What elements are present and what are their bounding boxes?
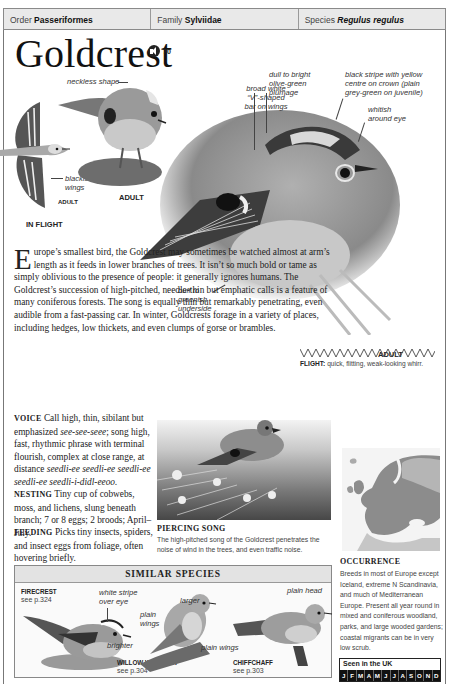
taxonomy-bar: Order Passeriformes Family Sylviidae Spe… [3,8,446,30]
label-plain-wings-willow: plainwings [140,610,159,628]
month-sep: S [407,670,415,681]
leader-line [118,82,128,83]
label-plain-wings-chiffchaff: plain wings [201,643,239,652]
month-strip: J F M A M J J A S O N D [340,670,440,681]
month-nov: N [424,670,432,681]
month-jun: J [382,670,390,681]
species-ref-firecrest: see p.324 [21,596,52,603]
month-dec: D [433,670,440,681]
family-value: Sylviidae [185,15,222,25]
species-value: Regulus regulus [337,15,404,25]
label-brighter: brighter [107,641,133,650]
month-aug: A [399,670,407,681]
voice-section: VOICE Call high, thin, sibilant but emph… [14,412,154,489]
piercing-song-photo [157,420,331,520]
photo-caption-title: PIERCING SONG [157,524,226,533]
seen-in-uk-title: Seen in the UK [340,659,440,670]
description-text: Europe’s smallest bird, the Goldcrest ma… [14,246,330,334]
label-white-stripe: white stripeover eye [99,588,137,606]
leader-line [107,608,108,622]
audio-track-number: 70 [163,48,171,55]
species-name-firecrest: FIRECREST [21,588,57,595]
in-flight-adult-caption: ADULT [58,199,78,205]
taxon-species: Species Regulus regulus [299,9,445,29]
seen-in-uk-box: Seen in the UK J F M A M J J A S O N D [339,658,441,682]
feeding-section: FEEDING Picks tiny insects, spiders, and… [14,526,154,565]
month-apr: A [365,670,373,681]
occurrence-title: OCCURRENCE [340,557,400,566]
taxon-order: Order Passeriformes [4,9,151,29]
chiffchaff-illustration [233,594,333,669]
occurrence-map [342,448,440,551]
month-jan: J [340,670,348,681]
month-feb: F [348,670,356,681]
flight-pattern-zigzag-icon [300,348,435,358]
month-oct: O [416,670,424,681]
leader-line [266,93,267,133]
occurrence-text: Breeds in most of Europe except Iceland,… [340,569,444,654]
label-crown-stripe: black stripe with yellowcentre on crown … [345,70,445,97]
label-plain-head: plain head [287,586,322,595]
month-may: M [374,670,382,681]
flight-description: FLIGHT: quick, flitting, weak-looking wh… [300,360,423,367]
similar-species-panel: SIMILAR SPECIES FIRECREST see p.324 whit… [14,565,332,678]
label-whitish-eye: whitisharound eye [368,105,428,123]
similar-species-heading: SIMILAR SPECIES [15,566,331,583]
audio-track[interactable]: 70 [148,45,171,57]
label-neckless-shape: neckless shape [67,77,119,86]
month-mar: M [357,670,365,681]
label-olive-green-plumage: dull to brightolive-greenplumage [269,70,329,97]
taxon-family: Family Sylviidae [151,9,298,29]
month-jul: J [391,670,399,681]
label-larger: larger [180,596,199,605]
photo-caption: The high-pitched song of the Goldcrest p… [157,535,337,555]
willow-warbler-illustration [140,594,225,674]
dropcap: E [14,248,32,270]
speaker-icon[interactable] [148,45,160,57]
order-value: Passeriformes [34,15,93,25]
in-flight-caption: IN FLIGHT [26,220,63,229]
